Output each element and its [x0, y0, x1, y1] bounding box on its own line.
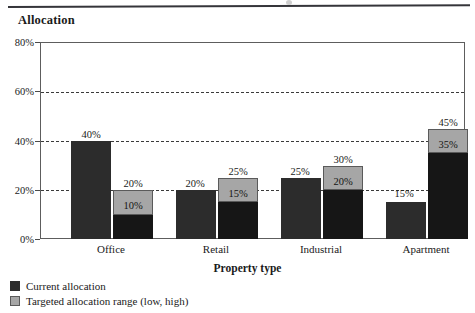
legend-item-current-allocation[interactable]: Current allocation [10, 278, 188, 293]
legend: Current allocation Targeted allocation r… [10, 278, 188, 308]
bar-label-apartment-high: 45% [428, 117, 468, 128]
legend-label-current-allocation: Current allocation [26, 280, 106, 292]
bar-current-office[interactable] [71, 141, 111, 239]
bar-group-apartment: 15% 45% 35% [386, 43, 468, 239]
x-category-label-industrial: Industrial [281, 243, 361, 255]
bar-label-apartment-low: 35% [428, 139, 468, 150]
bar-label-retail-low: 15% [218, 188, 258, 199]
bar-label-office-high: 20% [113, 178, 153, 189]
plot-area: 40% 20% 10% 20% 25% 15% 25% 30% 20% 15% … [41, 43, 464, 239]
bar-label-office-current: 40% [71, 129, 111, 140]
bar-label-industrial-current: 25% [280, 166, 320, 177]
header-rule [8, 4, 470, 8]
bar-label-retail-high: 25% [218, 166, 258, 177]
x-category-label-office: Office [71, 243, 151, 255]
bar-group-retail: 20% 25% 15% [176, 43, 258, 239]
bar-range-stem-apartment[interactable] [428, 153, 468, 239]
y-tick-label-20: 20% [0, 184, 34, 195]
x-axis-title: Property type [10, 262, 475, 274]
y-tick-label-80: 80% [0, 37, 34, 48]
bar-label-office-low: 10% [113, 200, 153, 211]
x-category-label-retail: Retail [176, 243, 256, 255]
y-tick-label-60: 60% [0, 86, 34, 97]
legend-label-targeted-range: Targeted allocation range (low, high) [26, 295, 188, 307]
bar-current-industrial[interactable] [281, 178, 321, 239]
bar-group-office: 40% 20% 10% [71, 43, 153, 239]
bar-range-stem-office[interactable] [113, 215, 153, 240]
legend-swatch-dark-icon [10, 281, 20, 291]
legend-swatch-gray-icon [10, 296, 20, 306]
bar-range-stem-industrial[interactable] [323, 190, 363, 239]
bar-range-stem-retail[interactable] [218, 202, 258, 239]
legend-item-targeted-range[interactable]: Targeted allocation range (low, high) [10, 293, 188, 308]
bar-current-apartment[interactable] [386, 202, 426, 239]
bar-group-industrial: 25% 30% 20% [281, 43, 363, 239]
bar-label-apartment-current: 15% [384, 188, 424, 199]
chart-title: Allocation [18, 13, 75, 28]
bar-current-retail[interactable] [176, 190, 216, 239]
x-category-label-apartment: Apartment [386, 243, 466, 255]
y-tick-mark-0 [35, 239, 40, 240]
y-tick-label-40: 40% [0, 135, 34, 146]
scan-artifact-speck [286, 0, 292, 5]
bar-label-industrial-low: 20% [323, 176, 363, 187]
y-tick-label-0: 0% [0, 234, 34, 245]
bar-label-retail-current: 20% [175, 178, 215, 189]
bar-label-industrial-high: 30% [323, 154, 363, 165]
